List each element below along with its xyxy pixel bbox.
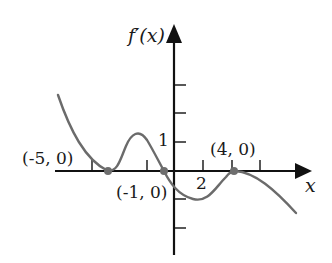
- point-label-neg1: (-1, 0): [116, 184, 167, 201]
- y-axis-title: f′(x): [128, 26, 165, 45]
- y-axis-arrow-icon: [166, 24, 182, 43]
- y-tick-label-1: 1: [158, 132, 169, 149]
- x-tick-label-2: 2: [196, 175, 207, 192]
- y-ticks: [174, 85, 186, 228]
- zero-marker-neg1: [160, 167, 168, 175]
- x-axis-title: x: [305, 176, 316, 195]
- point-label-neg5: (-5, 0): [22, 150, 73, 167]
- zero-marker-4: [230, 167, 238, 175]
- zero-marker-neg5: [104, 167, 112, 175]
- point-label-4: (4, 0): [210, 141, 256, 158]
